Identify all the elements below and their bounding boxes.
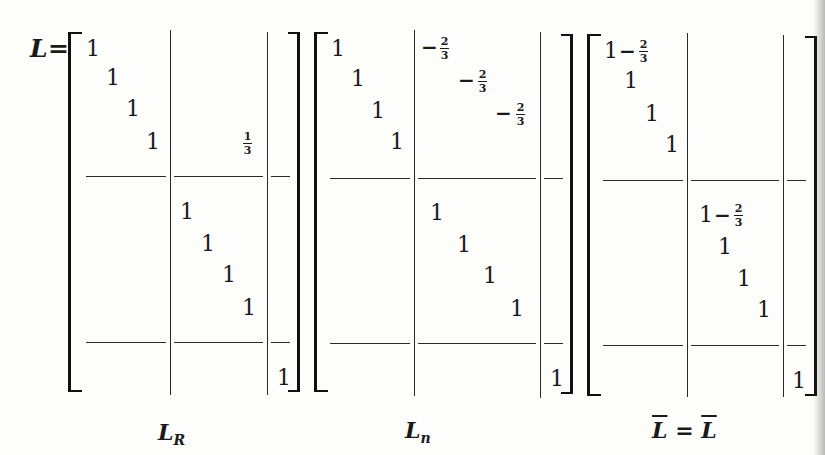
numerator: 2: [517, 102, 525, 113]
matrix-entry: 1: [737, 268, 751, 290]
numerator: 2: [441, 36, 449, 47]
label-left: L: [652, 417, 667, 443]
block-divider-horizontal: [603, 180, 683, 181]
scan-edge-shadow: [813, 0, 825, 455]
matrix-entry: 1: [371, 100, 385, 122]
matrix-entry: 1: [222, 264, 236, 286]
matrix-entry: 1: [483, 265, 497, 287]
minus-sign: −: [495, 103, 512, 123]
matrix-factorization-figure: L = 1 1 1 1 1 3 1 1 1 1 1 LR: [0, 0, 825, 455]
matrix-entry: 1: [242, 297, 256, 319]
block-divider-horizontal: [330, 178, 410, 179]
numerator: 2: [735, 203, 743, 214]
matrix-entry: 1: [604, 40, 618, 62]
block-divider-vertical: [414, 30, 415, 396]
block-divider-horizontal: [271, 176, 290, 177]
minus-sign: −: [458, 70, 475, 90]
matrix-entry: 1: [718, 236, 732, 258]
block-divider-horizontal: [174, 342, 263, 343]
minus-sign: −: [421, 37, 438, 57]
fraction-two-thirds: 2 3: [440, 36, 449, 61]
lhs-symbol-L: L: [30, 36, 48, 62]
denominator: 3: [735, 217, 743, 228]
label-right: L: [701, 417, 716, 443]
matrix-entry: 1: [106, 67, 120, 89]
block-divider-horizontal: [544, 178, 563, 179]
block-divider-horizontal: [787, 345, 806, 346]
block-divider-horizontal: [86, 342, 166, 343]
left-bracket: [314, 32, 328, 392]
block-divider-horizontal: [330, 343, 410, 344]
block-divider-horizontal: [86, 176, 166, 177]
block-divider-horizontal: [787, 180, 806, 181]
matrix-entry: 1: [180, 201, 194, 223]
matrix-corner-entry: 1: [792, 370, 806, 392]
label-main: L: [158, 419, 173, 445]
matrix-entry: 1: [510, 298, 524, 320]
matrix-entry: 1: [757, 299, 771, 321]
minus-sign: −: [619, 41, 636, 61]
matrix-entry: 1: [390, 131, 404, 153]
matrix-entry: 1: [624, 70, 638, 92]
matrix-entry: 1: [351, 68, 365, 90]
matrix-entry: 1: [331, 38, 345, 60]
matrix-entry: 1: [699, 204, 713, 226]
fraction-two-thirds: 2 3: [478, 69, 487, 94]
block-divider-vertical: [170, 30, 171, 395]
block-divider-horizontal: [271, 342, 290, 343]
block-divider-vertical: [267, 32, 268, 395]
label-equals: =: [675, 417, 693, 443]
denominator: 3: [640, 53, 648, 64]
matrix-corner-entry: 1: [550, 368, 564, 390]
block-divider-vertical: [540, 32, 541, 398]
fraction-two-thirds: 2 3: [516, 102, 525, 127]
fraction-two-thirds: 2 3: [639, 39, 648, 64]
numerator: 2: [479, 69, 487, 80]
fraction-one-third: 1 3: [243, 131, 252, 156]
equals-sign: =: [48, 36, 69, 62]
label-subscript: n: [420, 430, 430, 446]
right-bracket: [561, 34, 573, 394]
denominator: 3: [441, 50, 449, 61]
minus-sign: −: [714, 205, 731, 225]
matrix-label-L-n: Ln: [405, 418, 431, 450]
left-bracket: [587, 34, 601, 396]
left-bracket: [68, 32, 82, 392]
right-bracket: [288, 32, 300, 392]
matrix-entry: 1: [430, 202, 444, 224]
matrix-entry: 1: [201, 233, 215, 255]
block-divider-horizontal: [418, 343, 536, 344]
block-divider-horizontal: [691, 180, 779, 181]
denominator: 3: [479, 83, 487, 94]
block-divider-horizontal: [174, 176, 263, 177]
numerator: 1: [244, 131, 252, 142]
matrix-entry: 1: [457, 234, 471, 256]
block-divider-horizontal: [544, 343, 563, 344]
matrix-entry: 1: [126, 98, 140, 120]
block-divider-horizontal: [418, 178, 536, 179]
block-divider-vertical: [783, 35, 784, 397]
block-divider-horizontal: [691, 345, 779, 346]
label-subscript: R: [173, 432, 185, 448]
denominator: 3: [517, 116, 525, 127]
numerator: 2: [640, 39, 648, 50]
denominator: 3: [244, 145, 252, 156]
matrix-entry: 1: [665, 134, 679, 156]
matrix-label-L-bar-equals-L-bar: L = L: [652, 418, 717, 442]
matrix-corner-entry: 1: [277, 367, 291, 389]
fraction-two-thirds: 2 3: [734, 203, 743, 228]
matrix-label-L-R: LR: [158, 420, 185, 452]
label-main: L: [405, 417, 420, 443]
block-divider-horizontal: [603, 345, 683, 346]
matrix-entry: 1: [86, 38, 100, 60]
matrix-entry: 1: [146, 131, 160, 153]
block-divider-vertical: [687, 33, 688, 397]
matrix-entry: 1: [645, 103, 659, 125]
